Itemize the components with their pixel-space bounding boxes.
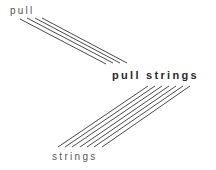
string-line bbox=[72, 86, 162, 147]
string-line bbox=[27, 18, 113, 63]
string-line bbox=[20, 19, 106, 64]
string-line bbox=[58, 86, 148, 147]
label-pull-strings: pull strings bbox=[112, 69, 199, 81]
string-line bbox=[87, 86, 176, 147]
label-pull: pull bbox=[10, 5, 34, 16]
string-lines bbox=[0, 0, 216, 170]
top-line-group bbox=[20, 18, 127, 64]
string-line bbox=[35, 18, 120, 63]
label-strings: strings bbox=[52, 151, 98, 162]
string-line bbox=[80, 86, 169, 147]
string-line bbox=[65, 86, 155, 147]
bottom-line-group bbox=[58, 86, 190, 147]
string-line bbox=[102, 86, 190, 147]
string-line bbox=[42, 18, 127, 63]
string-line bbox=[94, 86, 183, 147]
diagram-canvas: pull pull strings strings bbox=[0, 0, 216, 170]
